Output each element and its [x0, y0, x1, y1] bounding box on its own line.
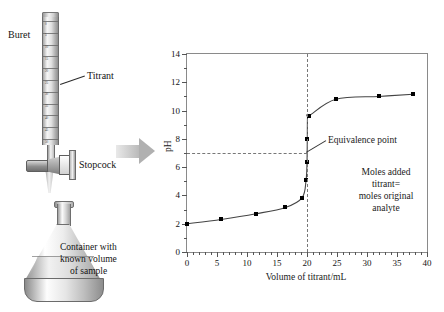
buret-graduation-number: 0 [45, 23, 47, 26]
y-axis-tick-label: 10 [171, 106, 180, 116]
buret-graduation-number: 40 [45, 117, 48, 120]
x-axis-tick-minor [409, 252, 410, 255]
buret-graduation-number: 25 [45, 82, 48, 85]
x-axis-tick-minor [271, 252, 272, 255]
process-arrow-head-icon [139, 138, 155, 164]
x-axis-tick-major [187, 252, 188, 257]
buret-graduation-number: 30 [45, 93, 48, 96]
annotation-line-1: Moles added titrant= [357, 166, 415, 190]
x-axis-tick-minor [415, 252, 416, 255]
container-label-line1: Container with [60, 242, 117, 252]
buret-label: Buret [8, 29, 30, 40]
y-axis-tick-minor [184, 238, 187, 239]
x-axis-tick-minor [391, 252, 392, 255]
x-axis-tick-label: 0 [185, 258, 190, 268]
x-axis-tick-minor [211, 252, 212, 255]
x-axis-tick-minor [199, 252, 200, 255]
y-axis-tick-minor [184, 68, 187, 69]
titrant-label: Titrant [87, 70, 114, 81]
buret-barrel: 05101520253035404550 [42, 17, 59, 145]
data-point-marker [411, 92, 415, 96]
y-axis-tick-major [182, 167, 187, 168]
x-axis-title: Volume of titrant/mL [266, 272, 347, 282]
x-axis-tick-label: 35 [393, 258, 402, 268]
x-axis-tick-major [367, 252, 368, 257]
stopcock-label: Stopcock [79, 159, 116, 170]
buret-graduation-number: 20 [45, 70, 48, 73]
data-point-marker [377, 94, 381, 98]
y-axis-tick-minor [184, 181, 187, 182]
titrant-leader-line [60, 76, 85, 85]
x-axis-tick-minor [403, 252, 404, 255]
x-axis-tick-minor [379, 252, 380, 255]
x-axis-tick-label: 15 [273, 258, 282, 268]
x-axis-tick-major [337, 252, 338, 257]
annotation-moles: Moles added titrant= moles original anal… [357, 166, 415, 214]
x-axis-tick-minor [223, 252, 224, 255]
equivalence-point-label: Equivalence point [328, 135, 397, 145]
x-axis-tick-minor [295, 252, 296, 255]
x-axis-tick-major [277, 252, 278, 257]
buret-graduation-number: 5 [45, 34, 47, 37]
annotation-line-2: moles original analyte [357, 190, 415, 214]
x-axis-tick-minor [301, 252, 302, 255]
x-axis-tick-minor [319, 252, 320, 255]
flask-neck [57, 204, 71, 226]
data-point-marker [254, 212, 258, 216]
x-axis-tick-label: 40 [423, 258, 432, 268]
x-axis-tick-major [397, 252, 398, 257]
y-axis-tick-major [182, 82, 187, 83]
x-axis-tick-minor [235, 252, 236, 255]
x-axis-tick-label: 5 [215, 258, 220, 268]
container-label-line3: of sample [70, 266, 107, 276]
buret-graduation-number: 45 [45, 129, 48, 132]
x-axis-tick-minor [421, 252, 422, 255]
y-axis-tick-minor [184, 210, 187, 211]
y-axis-tick-minor [184, 96, 187, 97]
data-point-marker [185, 222, 189, 226]
y-axis-tick-minor [184, 125, 187, 126]
equivalence-vertical-guide [307, 54, 308, 252]
x-axis-tick-minor [259, 252, 260, 255]
x-axis-tick-minor [265, 252, 266, 255]
stopcock-handle [69, 150, 76, 180]
flask-base [24, 278, 104, 302]
y-axis-tick-label: 6 [176, 162, 181, 172]
x-axis-tick-minor [313, 252, 314, 255]
y-axis-tick-label: 4 [176, 190, 181, 200]
x-axis-tick-minor [253, 252, 254, 255]
y-axis-tick-label: 12 [171, 77, 180, 87]
y-axis-tick-major [182, 195, 187, 196]
x-axis-tick-minor [283, 252, 284, 255]
x-axis-tick-major [217, 252, 218, 257]
x-axis-tick-label: 30 [363, 258, 372, 268]
x-axis-tick-minor [229, 252, 230, 255]
process-arrow-icon [116, 145, 141, 158]
x-axis-tick-minor [385, 252, 386, 255]
x-axis-tick-minor [355, 252, 356, 255]
x-axis-tick-minor [205, 252, 206, 255]
x-axis-tick-major [307, 252, 308, 257]
x-axis-tick-minor [241, 252, 242, 255]
data-point-marker [283, 205, 287, 209]
buret-graduation-number: 50 [45, 141, 48, 144]
x-axis-tick-minor [331, 252, 332, 255]
x-axis-tick-minor [193, 252, 194, 255]
y-axis-tick-major [182, 54, 187, 55]
titration-apparatus-diagram: 05101520253035404550 Buret Titrant Stopc… [0, 0, 165, 312]
y-axis-tick-label: 14 [171, 49, 180, 59]
x-axis-tick-major [427, 252, 428, 257]
y-axis-tick-label: 0 [176, 247, 181, 257]
x-axis-tick-minor [373, 252, 374, 255]
x-axis-tick-minor [349, 252, 350, 255]
x-axis-tick-label: 10 [243, 258, 252, 268]
x-axis-tick-minor [289, 252, 290, 255]
y-axis-tick-major [182, 111, 187, 112]
y-axis-tick-label: 2 [176, 219, 181, 229]
x-axis-tick-minor [361, 252, 362, 255]
x-axis-tick-major [247, 252, 248, 257]
x-axis-tick-minor [343, 252, 344, 255]
titration-curve-plot: 024681012140510152025303540 [186, 53, 428, 253]
buret-graduation-number: 15 [45, 58, 48, 61]
y-axis-title: pH [163, 140, 173, 152]
